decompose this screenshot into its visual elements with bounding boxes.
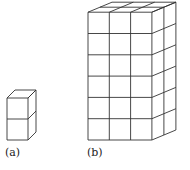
cube-diagrams [0, 0, 190, 170]
figure-a-label: (a) [5, 146, 20, 159]
figure-b-label: (b) [87, 146, 103, 159]
figure-b-cube-prism [88, 2, 176, 140]
figure-a-cube-stack [7, 90, 36, 140]
